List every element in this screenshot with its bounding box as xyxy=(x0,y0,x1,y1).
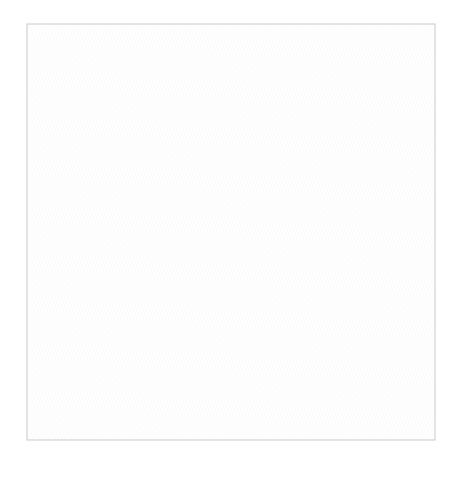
quilt-illustration xyxy=(0,0,476,485)
fabric-texture xyxy=(27,24,435,440)
